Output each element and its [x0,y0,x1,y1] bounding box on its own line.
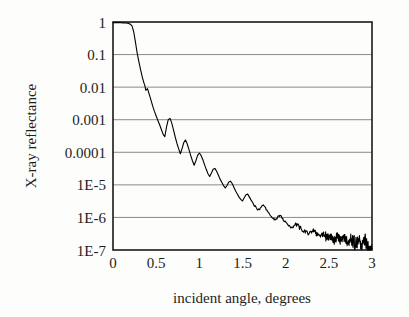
x-axis-title: incident angle, degrees [173,290,311,306]
x-tick-label: 1 [196,255,204,271]
figure-container: 10.10.010.0010.00011E-51E-61E-7 00.511.5… [0,0,409,317]
x-tick-label: 3 [368,255,376,271]
x-tick-label: 0 [109,255,117,271]
xray-reflectance-chart: 10.10.010.0010.00011E-51E-61E-7 00.511.5… [0,0,409,317]
y-tick-label: 1 [99,15,107,31]
x-tick-label: 1.5 [233,255,252,271]
y-tick-label: 0.1 [87,47,106,63]
y-tick-label: 0.01 [80,80,106,96]
chart-background [0,0,409,317]
x-axis-tick-labels: 00.511.522.53 [109,255,376,271]
x-tick-label: 0.5 [147,255,166,271]
y-tick-label: 0.001 [72,112,106,128]
x-tick-label: 2 [282,255,290,271]
y-tick-label: 0.0001 [65,145,106,161]
y-tick-label: 1E-6 [77,210,107,226]
y-tick-label: 1E-5 [77,177,106,193]
y-axis-title: X-ray reflectance [23,83,39,188]
y-tick-label: 1E-7 [77,243,107,259]
x-tick-label: 2.5 [319,255,338,271]
